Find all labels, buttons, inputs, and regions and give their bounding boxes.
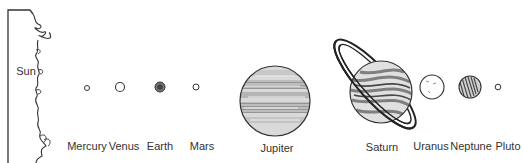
mars-label: Mars xyxy=(190,140,214,152)
earth xyxy=(155,82,165,92)
uranus-label: Uranus xyxy=(413,140,448,152)
sun xyxy=(8,10,51,163)
earth-label: Earth xyxy=(147,140,173,152)
solar-system-diagram: Sun Mercury Venus Earth Mars Jupiter Sat… xyxy=(0,0,523,163)
jupiter-label: Jupiter xyxy=(260,142,293,154)
pluto-label: Pluto xyxy=(495,140,520,152)
mars xyxy=(193,84,199,90)
mercury-label: Mercury xyxy=(67,140,107,152)
pluto xyxy=(495,84,501,90)
diagram-canvas xyxy=(0,0,523,163)
uranus xyxy=(420,75,444,99)
mercury xyxy=(85,86,90,91)
neptune-label: Neptune xyxy=(450,140,492,152)
jupiter xyxy=(240,66,310,136)
venus xyxy=(116,83,125,92)
venus-label: Venus xyxy=(109,140,140,152)
sun-label: Sun xyxy=(16,65,36,77)
saturn-label: Saturn xyxy=(366,141,398,153)
saturn xyxy=(324,30,425,138)
neptune xyxy=(459,76,481,98)
